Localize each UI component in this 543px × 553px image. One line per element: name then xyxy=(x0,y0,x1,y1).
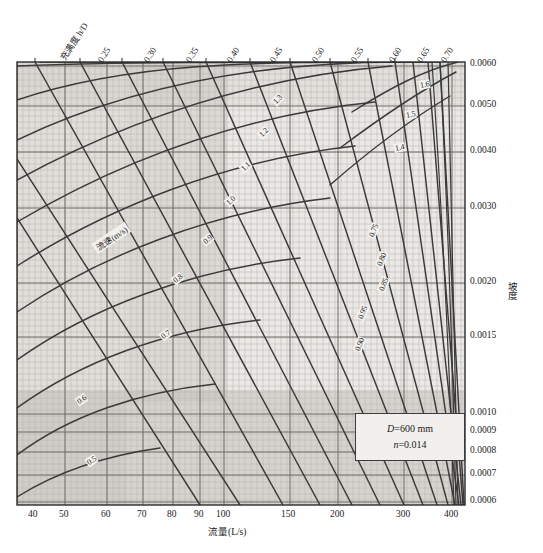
right-axis-title: 坡度 xyxy=(505,282,519,300)
x-tick-3: 70 xyxy=(137,509,147,519)
x-tick-0: 40 xyxy=(28,509,38,519)
bottom-axis-title-text: 流量(L/s) xyxy=(208,527,246,537)
x-tick-9: 300 xyxy=(396,509,410,519)
chart-area: 充满度 h/D 0.25 0.30 0.35 0.40 0.45 0.50 0.… xyxy=(0,0,543,553)
bottom-axis-title: 流量(L/s) xyxy=(208,524,246,538)
y-tick-9: 0.0007 xyxy=(470,468,496,478)
y-tick-2: 0.0040 xyxy=(470,145,496,155)
y-tick-3: 0.0030 xyxy=(470,201,496,211)
x-tick-6: 100 xyxy=(216,509,230,519)
roughness-line: n=0.014 xyxy=(366,437,454,453)
nomograph-svg xyxy=(0,0,543,553)
velocity-tag-9: 1.4 xyxy=(393,142,406,153)
y-tick-0: 0.0060 xyxy=(470,58,496,68)
nomograph-page: 充满度 h/D 0.25 0.30 0.35 0.40 0.45 0.50 0.… xyxy=(0,0,543,553)
y-tick-10: 0.0006 xyxy=(470,495,496,505)
x-tick-1: 50 xyxy=(59,509,69,519)
right-axis-title-text: 坡度 xyxy=(507,282,517,300)
x-tick-5: 90 xyxy=(194,509,204,519)
x-tick-4: 80 xyxy=(167,509,177,519)
x-tick-7: 150 xyxy=(281,509,295,519)
y-tick-4: 0.0020 xyxy=(470,276,496,286)
parameter-info-box: D=600 mm n=0.014 xyxy=(355,413,465,461)
velocity-tag-11: 1.6 xyxy=(418,79,431,90)
x-tick-2: 60 xyxy=(101,509,111,519)
y-tick-8: 0.0008 xyxy=(470,445,496,455)
x-tick-8: 200 xyxy=(330,509,344,519)
y-tick-5: 0.0015 xyxy=(470,330,496,340)
roughness-value: =0.014 xyxy=(398,439,426,450)
y-tick-7: 0.0009 xyxy=(470,425,496,435)
velocity-tag-10: 1.5 xyxy=(404,109,417,120)
diameter-value: =600 mm xyxy=(394,423,433,434)
diameter-line: D=600 mm xyxy=(366,421,454,437)
x-tick-10: 400 xyxy=(444,509,458,519)
y-tick-6: 0.0010 xyxy=(470,407,496,417)
y-tick-1: 0.0050 xyxy=(470,99,496,109)
